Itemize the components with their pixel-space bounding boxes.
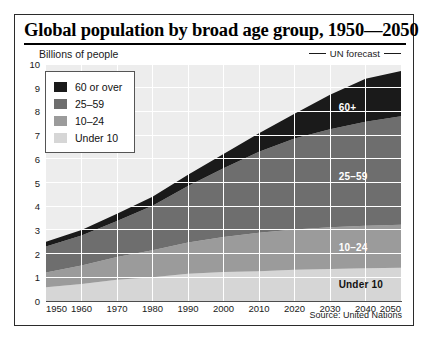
y-tick-1: 1	[35, 272, 40, 283]
x-tick-1970: 1970	[106, 303, 127, 314]
x-tick-1980: 1980	[142, 303, 163, 314]
y-tick-4: 4	[35, 201, 40, 212]
y-tick-2: 2	[35, 248, 40, 259]
legend-swatch-icon	[54, 82, 67, 92]
y-tick-10: 10	[29, 59, 40, 70]
y-tick-6: 6	[35, 153, 40, 164]
y-tick-7: 7	[35, 130, 40, 141]
legend-item-2[interactable]: 10–24	[54, 112, 122, 129]
y-tick-8: 8	[35, 106, 40, 117]
legend-label: 60 or over	[75, 81, 122, 93]
band-label-10-24: 10–24	[339, 242, 368, 253]
y-tick-9: 9	[35, 82, 40, 93]
page-title: Global population by broad age group, 19…	[24, 20, 406, 41]
forecast-dash-right-icon	[384, 53, 401, 54]
x-tick-2000: 2000	[213, 303, 234, 314]
legend-swatch-icon	[54, 116, 67, 126]
legend-label: 10–24	[75, 115, 104, 127]
legend-label: Under 10	[75, 132, 118, 144]
band-label-60-: 60+	[339, 102, 357, 113]
chart-legend: 60 or over25–5910–24Under 10	[45, 71, 135, 153]
legend-label: 25–59	[75, 98, 104, 110]
title-block: Global population by broad age group, 19…	[24, 20, 406, 46]
legend-swatch-icon	[54, 133, 67, 143]
legend-item-1[interactable]: 25–59	[54, 95, 122, 112]
x-tick-1990: 1990	[177, 303, 198, 314]
x-tick-1960: 1960	[71, 303, 92, 314]
forecast-label: UN forecast	[330, 48, 380, 59]
y-axis: 012345678910	[15, 64, 43, 301]
band-label-25-59: 25–59	[339, 171, 368, 182]
x-tick-2020: 2020	[284, 303, 305, 314]
x-axis-line	[46, 301, 402, 302]
un-forecast-marker: UN forecast	[309, 48, 401, 59]
source-note: Source: United Nations	[309, 310, 402, 320]
forecast-dash-left-icon	[309, 53, 326, 54]
legend-swatch-icon	[54, 99, 67, 109]
y-tick-3: 3	[35, 224, 40, 235]
legend-item-0[interactable]: 60 or over	[54, 78, 122, 95]
y-tick-0: 0	[35, 296, 40, 307]
legend-item-3[interactable]: Under 10	[54, 129, 122, 146]
band-label-under-10: Under 10	[339, 279, 383, 290]
title-divider	[24, 43, 406, 45]
y-tick-5: 5	[35, 177, 40, 188]
chart-figure: Global population by broad age group, 19…	[14, 14, 414, 326]
x-tick-1950: 1950	[46, 303, 67, 314]
x-tick-2010: 2010	[248, 303, 269, 314]
y-axis-unit-label: Billions of people	[39, 48, 118, 60]
